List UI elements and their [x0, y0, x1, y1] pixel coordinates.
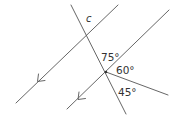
vertex-point: [105, 71, 107, 73]
label-angle-60: 60°: [116, 64, 135, 76]
geometry-diagram: c 75° 60° 45°: [0, 0, 180, 123]
label-angle-75: 75°: [101, 51, 120, 63]
label-angle-45: 45°: [118, 86, 137, 98]
label-c: c: [86, 13, 92, 24]
parallel-arrow-icon: [38, 74, 46, 82]
parallel-arrow-icon: [78, 92, 86, 100]
